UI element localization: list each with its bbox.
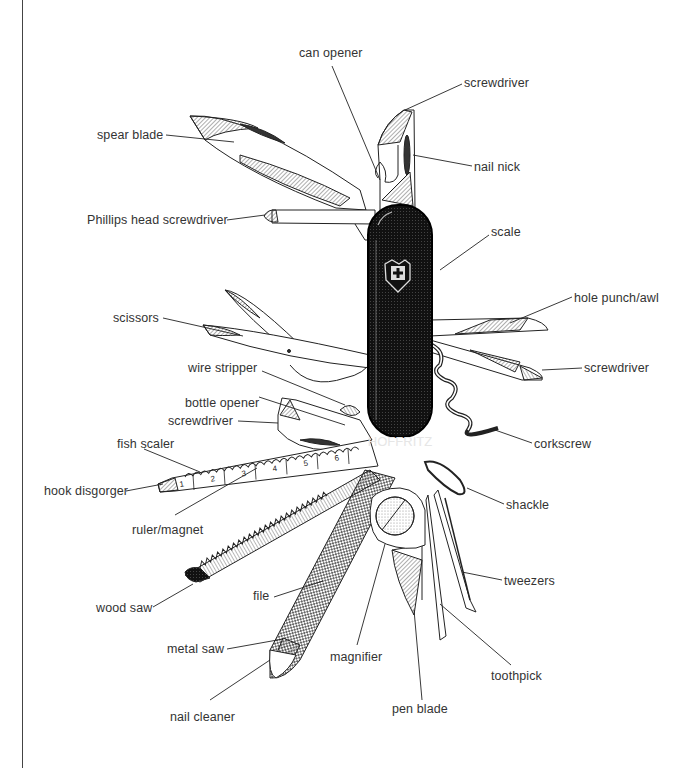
label-magnifier: magnifier <box>330 650 382 664</box>
label-shackle: shackle <box>506 498 549 512</box>
spear-blade-shape <box>190 116 366 210</box>
label-pen-blade: pen blade <box>392 702 448 716</box>
label-nail-cleaner: nail cleaner <box>170 710 235 724</box>
label-wood-saw: wood saw <box>96 601 152 615</box>
leader-tweezers <box>462 572 502 580</box>
leader-screwdriver-left <box>238 421 278 423</box>
leader-screwdriver-right <box>542 368 582 370</box>
label-scale: scale <box>491 225 521 239</box>
leader-magnifier <box>357 544 385 645</box>
brand-mark: HOFFRITZ <box>368 434 432 449</box>
leader-nail-nick <box>413 155 472 166</box>
leader-corkscrew <box>495 430 532 443</box>
leader-wire-stripper <box>262 371 345 405</box>
label-fish-scaler: fish scaler <box>117 437 174 451</box>
label-screwdriver-left: screwdriver <box>168 414 233 428</box>
label-hook-disgorger: hook disgorger <box>44 484 128 498</box>
pen-blade-shape <box>392 545 422 615</box>
magnifier-shape <box>370 488 425 548</box>
label-spear-blade: spear blade <box>97 128 163 142</box>
label-scissors: scissors <box>113 311 159 325</box>
leader-hook-disgorger <box>126 484 163 491</box>
label-tweezers: tweezers <box>504 574 555 588</box>
label-metal-saw: metal saw <box>167 642 224 656</box>
label-phillips-screwdriver: Phillips head screwdriver <box>87 213 228 227</box>
can-opener-screwdriver-shape <box>375 110 415 212</box>
label-screwdriver-right: screwdriver <box>584 361 649 375</box>
label-hole-punch-awl: hole punch/awl <box>574 291 659 305</box>
label-ruler-magnet: ruler/magnet <box>132 523 203 537</box>
screwdriver-right-shape <box>430 340 543 380</box>
leader-fish-scaler <box>144 449 200 472</box>
leader-scissors <box>163 318 243 336</box>
leader-pen-blade <box>414 610 422 700</box>
label-screwdriver-top: screwdriver <box>464 76 529 90</box>
label-wire-stripper: wire stripper <box>188 361 257 375</box>
label-bottle-opener: bottle opener <box>185 396 259 410</box>
leader-phillips-screwdriver <box>227 215 265 220</box>
leader-toothpick <box>440 604 511 665</box>
leader-hole-punch-awl <box>510 297 572 323</box>
leader-nail-cleaner <box>210 660 270 700</box>
shackle-shape <box>425 461 465 494</box>
knife-diagram: HOFFRITZ 123456 can openerscrewdriverspe… <box>0 0 695 770</box>
label-file: file <box>253 589 269 603</box>
leader-shackle <box>467 488 504 504</box>
phillips-screwdriver-shape <box>264 210 375 240</box>
tweezers-toothpick-shape <box>426 490 476 640</box>
label-toothpick: toothpick <box>491 669 542 683</box>
leader-wood-saw <box>153 584 193 607</box>
label-can-opener: can opener <box>299 46 363 60</box>
leader-screwdriver-top <box>405 84 462 110</box>
leader-scale <box>440 235 489 270</box>
knife-scale-body: HOFFRITZ <box>368 205 432 462</box>
label-corkscrew: corkscrew <box>534 437 591 451</box>
hole-punch-shape <box>430 318 548 336</box>
label-nail-nick: nail nick <box>474 160 520 174</box>
leader-can-opener <box>332 66 380 180</box>
